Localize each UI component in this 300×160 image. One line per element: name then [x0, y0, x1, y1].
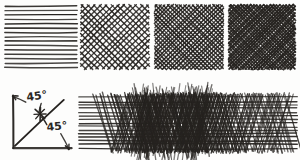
angle-label-angle-label-lower: 45° — [42, 117, 70, 150]
angle-value-text: 45° — [46, 119, 68, 134]
sheet-canvas: 45°45° — [0, 0, 300, 160]
swatch-3-dense-crosshatching — [154, 4, 223, 69]
swatch-1-horizontal-parallel-hatching — [5, 6, 78, 68]
angle-label-angle-label-upper: 45° — [13, 88, 49, 112]
angle-value-text: 45° — [26, 88, 48, 104]
swatch-2-diagonal-crosshatching — [80, 4, 149, 69]
swatch-4-very-dense-crosshatching — [228, 5, 295, 70]
hatching-technique-sheet: 45°45° — [0, 0, 300, 160]
